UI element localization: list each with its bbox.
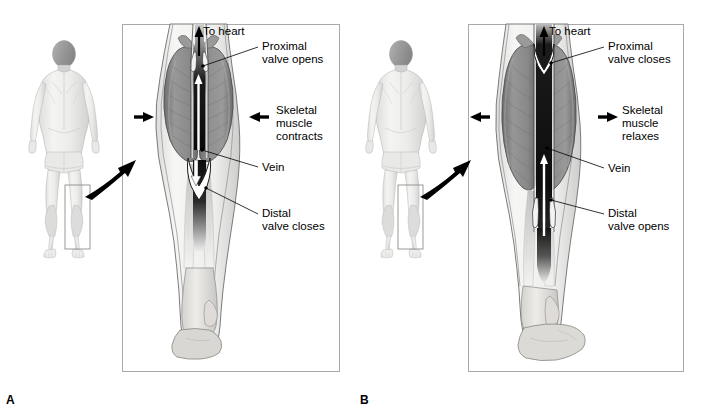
panel-b: To heart Proximal valve closes Skeletal … (354, 0, 707, 412)
panel-a-zoom-pointer-arrow (85, 160, 136, 200)
panel-b-label-skeletal-muscle: Skeletal muscle relaxes (622, 104, 663, 144)
figure-root: To heart Proximal valve opens Skeletal m… (0, 0, 707, 412)
panel-a-letter: A (6, 394, 15, 406)
panel-a-compression-arrow-left (134, 112, 154, 122)
panel-b-label-proximal-valve: Proximal valve closes (608, 40, 671, 66)
panel-b-leg-detail (470, 24, 618, 361)
panel-a-label-vein: Vein (262, 161, 284, 174)
panel-a-label-skeletal-muscle: Skeletal muscle contracts (276, 104, 323, 144)
panel-b-label-distal-valve: Distal valve opens (608, 207, 669, 233)
panel-a-compression-arrow-right (249, 112, 269, 122)
panel-a-label-distal-valve: Distal valve closes (262, 207, 325, 233)
panel-b-expansion-arrow-left (470, 112, 490, 122)
panel-a-leg-detail (134, 24, 269, 359)
panel-a-label-proximal-valve: Proximal valve opens (262, 40, 323, 66)
panel-b-body-figure (366, 41, 437, 259)
panel-a-label-to-heart: To heart (203, 25, 245, 38)
panel-b-letter: B (360, 394, 369, 406)
panel-b-expansion-arrow-right (598, 112, 618, 122)
panel-a: To heart Proximal valve opens Skeletal m… (0, 0, 353, 412)
panel-b-zoom-pointer-arrow (420, 160, 471, 200)
panel-b-label-to-heart: To heart (549, 25, 591, 38)
panel-b-label-vein: Vein (608, 162, 630, 175)
panel-a-body-figure (29, 41, 100, 259)
